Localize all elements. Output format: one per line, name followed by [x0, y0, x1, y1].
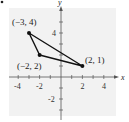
figure-bullet — [1, 1, 4, 4]
coordinate-plane-figure: x y -4 -2 2 4 4 -2 (−3, 4) (−2, 2) (2, — [0, 0, 129, 122]
vertex-label-neg2-2: (−2, 2) — [17, 61, 42, 71]
vertex-label-2-1: (2, 1) — [85, 55, 105, 65]
x-axis-label: x — [120, 73, 125, 82]
x-tick-label-2: 2 — [81, 82, 85, 91]
vertex-label-neg3-4: (−3, 4) — [12, 17, 37, 27]
x-tick-label-4: 4 — [102, 82, 106, 91]
vertex-point-2-1 — [80, 64, 84, 68]
x-axis-arrow-icon — [114, 75, 119, 79]
vertex-point-neg2-2 — [38, 53, 42, 57]
y-axis-label: y — [57, 0, 62, 7]
x-tick-label-neg2: -2 — [36, 82, 43, 91]
x-tick-label-neg4: -4 — [14, 82, 21, 91]
y-tick-label-neg2: -2 — [48, 95, 55, 104]
vertex-point-neg3-4 — [27, 31, 31, 35]
y-tick-label-4: 4 — [52, 29, 56, 38]
